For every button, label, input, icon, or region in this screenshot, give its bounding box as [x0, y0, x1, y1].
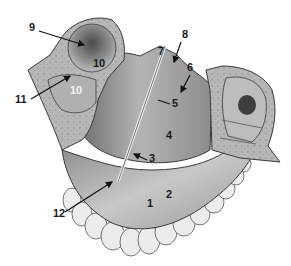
label-2: 2: [166, 189, 172, 200]
label-4: 4: [166, 130, 172, 141]
label-10-lower: 10: [70, 85, 82, 96]
label-10-upper: 10: [93, 58, 105, 69]
label-1: 1: [147, 198, 153, 209]
maxilla-illustration: [0, 0, 291, 266]
label-11: 11: [15, 94, 27, 105]
label-5: 5: [172, 98, 178, 109]
right-sinus-opening: [238, 95, 256, 115]
label-7: 7: [158, 46, 164, 57]
maxillary-sinus-upper: [68, 24, 116, 72]
label-12: 12: [53, 208, 65, 219]
label-3: 3: [149, 153, 155, 164]
label-8: 8: [182, 29, 188, 40]
label-6: 6: [187, 62, 193, 73]
label-9: 9: [29, 22, 35, 33]
